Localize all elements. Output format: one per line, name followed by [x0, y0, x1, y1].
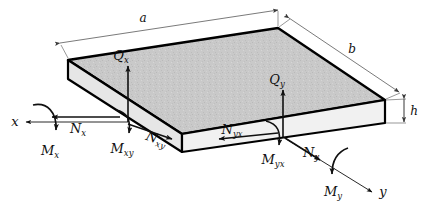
plate-resultants-figure: a b h Qx x Nx	[0, 0, 427, 203]
dimension-h-label: h	[410, 104, 418, 118]
dimension-a-label: a	[139, 11, 146, 25]
axis-y-label: y	[378, 184, 387, 199]
axis-x-label: x	[11, 114, 19, 129]
dimension-b-label: b	[348, 42, 356, 56]
